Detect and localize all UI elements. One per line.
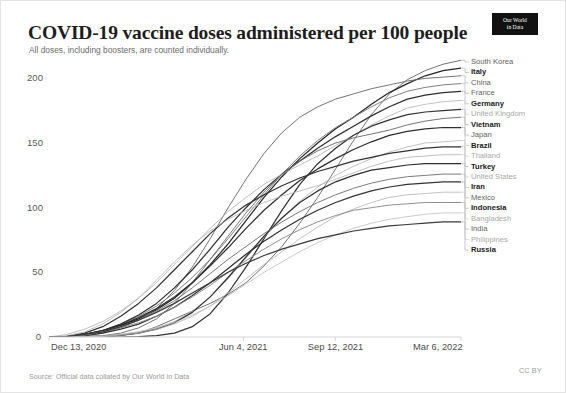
- legend-label-thailand[interactable]: Thailand: [471, 152, 500, 160]
- owid-logo-line1: Our World: [492, 17, 538, 24]
- chart-subtitle: All doses, including boosters, are count…: [29, 45, 229, 55]
- legend-label-france[interactable]: France: [471, 89, 495, 97]
- legend-label-iran[interactable]: Iran: [471, 183, 485, 191]
- legend-label-indonesia[interactable]: Indonesia: [471, 204, 506, 212]
- legend-label-india[interactable]: India: [471, 225, 487, 233]
- legend-label-germany[interactable]: Germany: [471, 100, 504, 108]
- source-note: Source: Official data collated by Our Wo…: [29, 372, 189, 381]
- line-series-group: South KoreaItalyChinaFranceGermanyUnited…: [49, 59, 461, 337]
- legend-label-china[interactable]: China: [471, 79, 491, 87]
- x-tick-label: Sep 12, 2021: [308, 342, 363, 352]
- legend-label-philippines[interactable]: Philippines: [471, 236, 508, 244]
- series-line[interactable]: Russia: [49, 222, 461, 337]
- owid-logo-line2: in Data: [492, 24, 538, 31]
- legend-label-united-kingdom[interactable]: United Kingdom: [471, 110, 525, 118]
- series-line[interactable]: France: [49, 84, 461, 337]
- series-line[interactable]: Japan: [49, 117, 461, 337]
- owid-logo[interactable]: Our World in Data: [492, 13, 538, 35]
- series-line[interactable]: Iran: [49, 164, 461, 337]
- legend-label-brazil[interactable]: Brazil: [471, 142, 492, 150]
- legend-label-bangladesh[interactable]: Bangladesh: [471, 215, 511, 223]
- legend-label-russia[interactable]: Russia: [471, 246, 496, 254]
- y-tick-label: 50: [1, 266, 43, 277]
- legend-label-japan[interactable]: Japan: [471, 131, 492, 139]
- series-line[interactable]: Thailand: [49, 141, 461, 338]
- series-line[interactable]: Bangladesh: [49, 192, 461, 337]
- y-tick-label: 200: [1, 72, 43, 83]
- legend-label-italy[interactable]: Italy: [471, 68, 486, 76]
- legend-label-united-states[interactable]: United States: [471, 173, 517, 181]
- legend-label-mexico[interactable]: Mexico: [471, 194, 495, 202]
- legend-label-turkey[interactable]: Turkey: [471, 163, 495, 171]
- series-line[interactable]: Vietnam: [49, 109, 461, 337]
- chart-card: COVID-19 vaccine doses administered per …: [0, 0, 566, 393]
- series-line[interactable]: Germany: [49, 91, 461, 337]
- y-tick-label: 150: [1, 137, 43, 148]
- page-title: COVID-19 vaccine doses administered per …: [28, 22, 467, 44]
- y-tick-label: 0: [7, 331, 41, 342]
- x-tick-label: Dec 13, 2020: [51, 342, 106, 352]
- x-tick-label: Jun 4, 2021: [219, 342, 268, 352]
- plot-area[interactable]: South KoreaItalyChinaFranceGermanyUnited…: [49, 59, 461, 337]
- y-tick-label: 100: [1, 202, 43, 213]
- x-tick-label: Mar 6, 2022: [413, 342, 463, 352]
- legend-label-south-korea[interactable]: South Korea: [471, 58, 513, 66]
- license-note[interactable]: CC BY: [519, 366, 542, 375]
- series-line[interactable]: Turkey: [49, 147, 461, 337]
- legend-label-vietnam[interactable]: Vietnam: [471, 121, 500, 129]
